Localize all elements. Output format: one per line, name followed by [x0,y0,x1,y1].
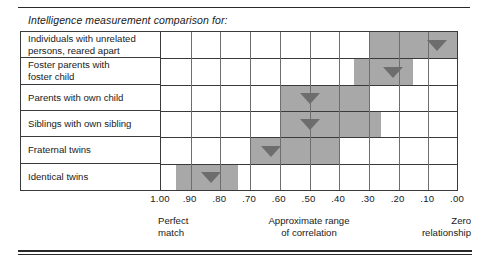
row-label-line1: Foster parents with [28,59,110,71]
plot-area [161,32,457,190]
figure-title: Intelligence measurement comparison for: [28,14,228,26]
grid-line-vertical [428,32,429,190]
grid-line-vertical [310,32,311,190]
grid-line-vertical [220,32,221,190]
correlation-marker-triangle [201,172,221,183]
axis-tick-label: .70 [242,193,256,204]
row-label-line1: Fraternal twins [28,144,91,156]
axis-tick-label: .60 [272,193,286,204]
row-label-line1: Parents with own child [28,92,123,104]
correlation-marker-triangle [300,119,320,130]
caption-zero-relationship-line2: relationship [422,227,471,239]
axis-tick-label: 1.00 [150,193,169,204]
correlation-marker-triangle [427,40,447,51]
caption-perfect-match-line1: Perfect [158,215,188,227]
axis-tick-label: .80 [212,193,226,204]
figure-intelligence-correlation: Intelligence measurement comparison for:… [0,0,490,265]
grid-line-vertical [369,32,370,190]
row-label-line1: Identical twins [28,171,88,183]
correlation-marker-triangle [383,67,403,78]
caption-approximate-range-line2: of correlation [268,227,349,239]
row-label: Individuals with unrelatedpersons, reare… [21,32,161,58]
row-label-line1: Siblings with own sibling [28,118,131,130]
axis-tick-label: .50 [302,193,316,204]
row-label-line2: foster child [28,71,110,83]
axis-tick-label: .40 [331,193,345,204]
x-axis-tick-labels: 1.00.90.80.70.60.50.40.30.20.10.00 [160,193,458,205]
correlation-marker-triangle [261,146,281,157]
row-label-line1: Individuals with unrelated [28,33,136,45]
bottom-rule-line-lower [18,254,472,255]
top-rule-divider [18,7,470,8]
bottom-rule-divider [18,250,472,257]
correlation-range-bar [280,111,381,137]
caption-perfect-match: Perfect match [158,215,188,240]
caption-zero-relationship-line1: Zero [422,215,471,227]
caption-approximate-range: Approximate range of correlation [268,215,349,240]
row-label: Foster parents withfoster child [21,58,161,84]
correlation-marker-triangle [300,93,320,104]
bottom-rule-line-upper [18,250,472,252]
row-label: Siblings with own sibling [21,111,161,137]
axis-tick-label: .20 [391,193,405,204]
correlation-range-bar [280,85,369,111]
axis-tick-label: .90 [183,193,197,204]
caption-zero-relationship: Zero relationship [422,215,471,240]
correlation-chart: Individuals with unrelatedpersons, reare… [20,31,458,191]
grid-line-vertical [280,32,281,190]
row-label: Fraternal twins [21,137,161,163]
row-label-line2: persons, reared apart [28,45,136,57]
axis-tick-label: .00 [450,193,464,204]
caption-approximate-range-line1: Approximate range [268,215,349,227]
row-label: Identical twins [21,164,161,190]
grid-line-vertical [250,32,251,190]
grid-line-vertical [191,32,192,190]
row-label-column: Individuals with unrelatedpersons, reare… [21,32,161,190]
caption-perfect-match-line2: match [158,227,188,239]
row-label: Parents with own child [21,85,161,111]
grid-line-vertical [339,32,340,190]
axis-tick-label: .10 [420,193,434,204]
grid-line-vertical [399,32,400,190]
axis-tick-label: .30 [361,193,375,204]
